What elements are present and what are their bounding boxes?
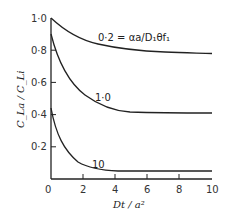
y-tick-label: 0·8 xyxy=(31,45,47,56)
y-tick-label: 0·4 xyxy=(31,109,47,120)
y-ticks xyxy=(51,50,56,147)
curve-label-1-0: 1·0 xyxy=(95,92,111,103)
chart: 1·0 0·8 0·6 0·4 0·2 0 2 4 6 8 10 Dt / a²… xyxy=(0,0,226,212)
curve-label-10: 10 xyxy=(92,159,105,170)
curve-label-0-2: 0·2 = αa/D₁θf₁ xyxy=(98,32,170,43)
x-tick-label: 0 xyxy=(45,184,51,195)
y-tick-label: 0·2 xyxy=(31,141,47,152)
x-tick-label: 4 xyxy=(112,184,118,195)
x-ticks xyxy=(83,174,179,179)
x-tick-label: 2 xyxy=(80,184,86,195)
x-tick-label: 6 xyxy=(144,184,150,195)
x-axis-title: Dt / a² xyxy=(112,199,145,210)
x-tick-label: 10 xyxy=(206,184,219,195)
y-tick-label: 0·6 xyxy=(31,77,47,88)
y-axis-title: C_La / C_Li xyxy=(15,71,27,128)
x-tick-label: 8 xyxy=(176,184,182,195)
curve-1-0 xyxy=(51,34,212,113)
curve-10 xyxy=(51,108,212,171)
y-tick-label: 1·0 xyxy=(31,13,47,24)
